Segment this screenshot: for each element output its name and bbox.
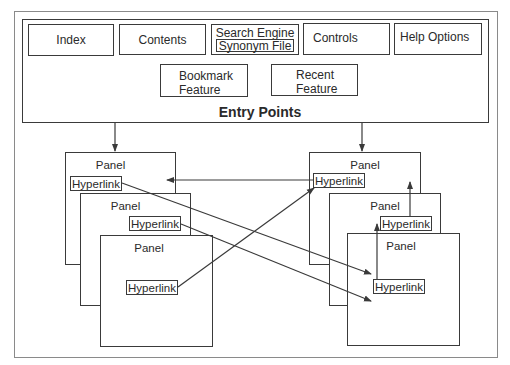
left-panel-2-hyperlink[interactable]: Hyperlink	[129, 216, 181, 231]
hyperlink-label: Hyperlink	[72, 178, 120, 190]
left-panel-1-hyperlink[interactable]: Hyperlink	[70, 176, 122, 191]
bookmark-label-line1: Bookmark	[179, 69, 247, 83]
left-panel-3-hyperlink[interactable]: Hyperlink	[126, 280, 178, 295]
recent-label-line2: Feature	[296, 82, 357, 96]
right-panel-1-hyperlink[interactable]: Hyperlink	[313, 173, 365, 188]
recent-feature-box: Recent Feature	[271, 64, 358, 96]
contents-label: Contents	[138, 33, 186, 47]
right-panel-1-title: Panel	[310, 159, 420, 171]
right-panel-2-title: Panel	[330, 200, 440, 212]
entry-points-title: Entry Points	[22, 104, 498, 120]
right-panel-3-hyperlink[interactable]: Hyperlink	[373, 279, 425, 294]
contents-box: Contents	[119, 24, 206, 55]
hyperlink-label: Hyperlink	[375, 281, 423, 293]
synonym-file-box: Synonym File	[216, 39, 294, 52]
index-label: Index	[56, 33, 85, 47]
left-panel-3-title: Panel	[101, 242, 197, 254]
left-panel-1-title: Panel	[66, 159, 155, 171]
right-panel-3-title: Panel	[348, 240, 454, 252]
right-panel-2-hyperlink[interactable]: Hyperlink	[380, 216, 432, 231]
search-engine-box: Search Engine Synonym File	[211, 24, 299, 55]
help-options-box: Help Options	[394, 23, 482, 55]
hyperlink-label: Hyperlink	[128, 282, 176, 294]
hyperlink-label: Hyperlink	[382, 218, 430, 230]
synonym-file-label: Synonym File	[219, 39, 292, 53]
controls-box: Controls	[303, 23, 390, 55]
index-box: Index	[28, 24, 114, 56]
help-options-label: Help Options	[400, 30, 469, 44]
hyperlink-label: Hyperlink	[131, 218, 179, 230]
bookmark-label-line2: Feature	[179, 83, 247, 97]
recent-label-line1: Recent	[296, 68, 357, 82]
bookmark-feature-box: Bookmark Feature	[160, 64, 248, 97]
left-panel-2-title: Panel	[81, 200, 170, 212]
hyperlink-label: Hyperlink	[315, 175, 363, 187]
controls-label: Controls	[313, 31, 358, 45]
